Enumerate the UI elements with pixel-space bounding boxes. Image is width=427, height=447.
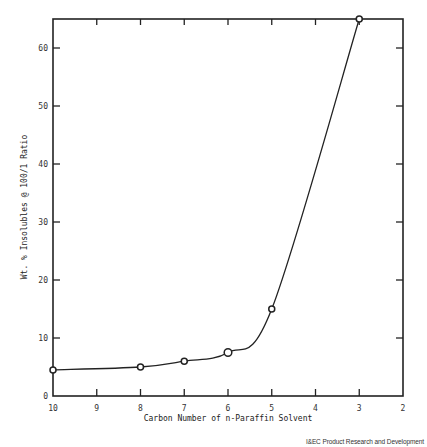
x-tick-label: 4 — [313, 404, 318, 413]
data-point-marker — [356, 16, 362, 22]
y-axis-ticks: 0102030405060 — [38, 44, 403, 401]
y-tick-label: 20 — [38, 276, 48, 285]
x-tick-label: 2 — [401, 404, 406, 413]
x-tick-label: 9 — [94, 404, 99, 413]
y-axis-label: Wt. % Insolubles @ 100/1 Ratio — [20, 135, 29, 280]
x-tick-label: 6 — [226, 404, 231, 413]
y-tick-label: 30 — [38, 218, 48, 227]
x-axis-label: Carbon Number of n-Paraffin Solvent — [144, 414, 313, 423]
data-point-marker — [138, 364, 144, 370]
x-tick-label: 5 — [269, 404, 274, 413]
data-points — [50, 16, 362, 373]
data-point-marker — [181, 358, 187, 364]
y-tick-label: 60 — [38, 44, 48, 53]
chart: 1098765432 0102030405060 Carbon Number o… — [0, 0, 427, 447]
data-curve — [53, 19, 359, 370]
plot-border — [53, 19, 403, 396]
x-tick-label: 10 — [48, 404, 58, 413]
data-point-marker — [224, 349, 232, 357]
y-tick-label: 10 — [38, 334, 48, 343]
plot-frame — [53, 19, 403, 396]
data-point-marker — [269, 306, 275, 312]
y-tick-label: 50 — [38, 102, 48, 111]
y-tick-label: 40 — [38, 160, 48, 169]
x-tick-label: 8 — [138, 404, 143, 413]
y-tick-label: 0 — [43, 392, 48, 401]
x-tick-label: 3 — [357, 404, 362, 413]
x-tick-label: 7 — [182, 404, 187, 413]
journal-credit: I&EC Product Research and Development — [306, 438, 424, 445]
data-point-marker — [50, 367, 56, 373]
